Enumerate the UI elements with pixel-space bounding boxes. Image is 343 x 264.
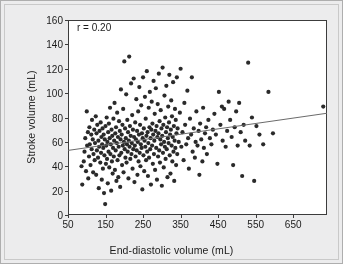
y-tick-label: 100 <box>29 88 63 99</box>
x-tick-label: 450 <box>210 219 227 230</box>
y-tick-label: 140 <box>29 39 63 50</box>
y-tick-label: 0 <box>29 210 63 221</box>
y-tick-label: 60 <box>29 136 63 147</box>
x-axis-title: End-diastolic volume (mL) <box>1 244 342 256</box>
figure-container: r = 0.20 Stroke volume (mL) End-diastoli… <box>0 0 343 264</box>
y-tick-label: 20 <box>29 185 63 196</box>
y-tick-label: 80 <box>29 112 63 123</box>
y-tick-label: 40 <box>29 161 63 172</box>
x-tick-label: 250 <box>135 219 152 230</box>
x-tick-label: 150 <box>97 219 114 230</box>
correlation-annotation: r = 0.20 <box>77 22 111 33</box>
x-tick-label: 550 <box>247 219 264 230</box>
x-tick-label: 650 <box>285 219 302 230</box>
x-tick-label: 350 <box>172 219 189 230</box>
x-tick-label: 50 <box>62 219 73 230</box>
y-tick-label: 160 <box>29 15 63 26</box>
y-tick-label: 120 <box>29 63 63 74</box>
